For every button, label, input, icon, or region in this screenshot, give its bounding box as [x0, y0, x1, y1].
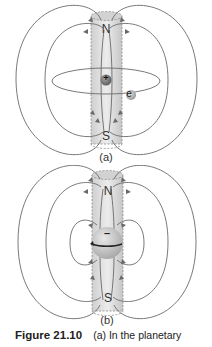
- south-pole-label: S: [102, 130, 110, 142]
- figure-panel-a: N + e S (a): [0, 0, 212, 165]
- panel-a-label: (a): [99, 152, 112, 163]
- nucleus-charge-label: +: [103, 74, 108, 83]
- caption-text: (a) In the planetary: [93, 329, 181, 341]
- south-pole-label: S: [104, 292, 112, 304]
- figure-number: Figure 21.10: [15, 329, 82, 341]
- figure-panel-b: N – S (b): [0, 165, 212, 330]
- electron-label: e: [126, 89, 132, 99]
- figure-caption: Figure 21.10 (a) In the planetary: [15, 329, 181, 341]
- panel-b-label: (b): [100, 315, 113, 326]
- electron-charge-label: –: [104, 228, 110, 239]
- cylinder-top: [92, 171, 123, 180]
- north-pole-label: N: [104, 185, 113, 197]
- north-pole-label: N: [102, 23, 111, 35]
